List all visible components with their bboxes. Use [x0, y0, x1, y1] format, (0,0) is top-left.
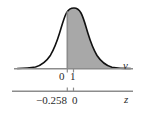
normal-distribution-figure: 0 1 v −0.258 0 z [0, 0, 142, 116]
lower-axis-tick-label-0: −0.258 [36, 95, 67, 106]
lower-axis-label-z: z [124, 94, 128, 105]
upper-axis-label-v: v [123, 60, 128, 71]
upper-axis-tick-label-1: 1 [70, 71, 76, 82]
lower-axis-tick-label-1: 0 [72, 95, 78, 106]
distribution-plot-svg [0, 0, 142, 116]
upper-axis-tick-label-0: 0 [59, 71, 65, 82]
